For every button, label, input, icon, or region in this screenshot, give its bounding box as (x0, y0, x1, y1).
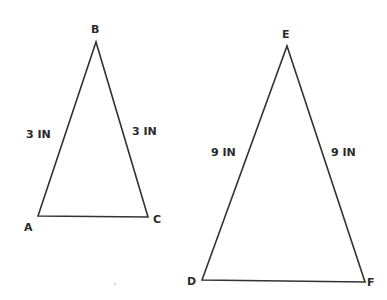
side-label-de: 9 IN (211, 146, 236, 159)
side-label-ef: 9 IN (331, 146, 356, 159)
diagram-canvas: B A C 3 IN 3 IN E D F 9 IN 9 IN (0, 0, 387, 300)
triangle-abc: B A C 3 IN 3 IN (24, 23, 161, 234)
triangles-svg: B A C 3 IN 3 IN E D F 9 IN 9 IN (0, 0, 387, 300)
vertex-label-e: E (282, 28, 290, 41)
triangle-def: E D F 9 IN 9 IN (187, 28, 375, 289)
vertex-label-b: B (91, 23, 99, 36)
vertex-label-d: D (187, 275, 196, 288)
vertex-label-c: C (153, 213, 161, 226)
stray-dot (114, 283, 116, 285)
triangle-def-shape (202, 46, 365, 282)
side-label-ab: 3 IN (26, 128, 51, 141)
vertex-label-f: F (367, 276, 375, 289)
vertex-label-a: A (24, 221, 33, 234)
side-label-bc: 3 IN (132, 125, 157, 138)
